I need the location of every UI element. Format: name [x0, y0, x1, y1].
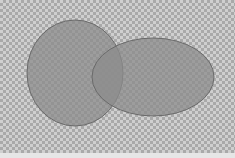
right-ellipse: [92, 38, 214, 116]
bottom-strip: [0, 153, 235, 158]
venn-diagram: [0, 0, 235, 153]
